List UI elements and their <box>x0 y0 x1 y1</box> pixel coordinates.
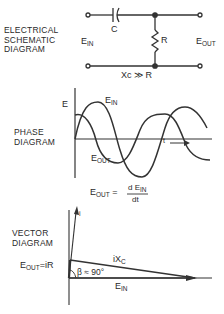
ein-arrow-icon <box>186 275 197 281</box>
vector-ein-label: EIN <box>115 281 128 292</box>
eout-sub: OUT <box>97 157 111 164</box>
ixc-sub: C <box>121 258 126 265</box>
eout-eq: =iR <box>40 260 54 270</box>
time-arrow-icon <box>184 140 190 146</box>
formula-lhs-sub: OUT <box>96 191 110 198</box>
vector-plot <box>69 206 212 305</box>
formula-equals: = <box>112 187 117 197</box>
phase-title: PHASE DIAGRAM <box>14 128 55 147</box>
input-terminal-bottom <box>86 64 90 68</box>
phase-eout-label: EOUT <box>91 153 111 164</box>
ixc-main: iX <box>113 254 121 264</box>
ixc-label: iXC <box>113 254 126 265</box>
formula-lhs: EOUT = <box>90 187 118 198</box>
angle-label: β ≈ 90° <box>77 267 104 277</box>
vector-title: VECTOR DIAGRAM <box>12 229 53 248</box>
eout-terminal-label: EOUT <box>196 36 216 47</box>
formula-denominator: dt <box>132 195 139 204</box>
junction-node-bottom <box>153 64 157 68</box>
ein-sub: IN <box>87 40 94 47</box>
ein-sub: IN <box>121 285 128 292</box>
formula-numerator: d EIN <box>128 183 147 193</box>
eout-sub: OUT <box>202 40 216 47</box>
input-terminal-top <box>86 13 90 17</box>
eout-sub: OUT <box>26 264 40 271</box>
schematic-title: ELECTRICAL SCHEMATIC DIAGRAM <box>4 26 58 55</box>
resistor-zigzag <box>152 30 158 52</box>
vector-title-line: DIAGRAM <box>12 239 53 249</box>
output-terminal-top <box>198 13 202 17</box>
eout-vector <box>69 260 70 278</box>
vector-eout-label: EOUT=iR <box>20 260 54 271</box>
ein-sub: IN <box>111 99 118 106</box>
phase-plot <box>75 88 212 178</box>
current-label: i <box>79 210 81 217</box>
formula-num-main: d E <box>128 183 140 192</box>
time-label: t <box>163 137 165 144</box>
phase-axis-label: E <box>62 99 68 109</box>
ein-terminal-label: EIN <box>81 36 94 47</box>
resistor-label: R <box>161 35 168 45</box>
phase-ein-label: EIN <box>105 95 118 106</box>
condition-label: Xc ≫ R <box>121 70 152 80</box>
schematic-title-line: DIAGRAM <box>4 45 58 55</box>
output-terminal-bottom <box>198 64 202 68</box>
capacitor-label: C <box>111 24 118 34</box>
formula-num-sub: IN <box>140 186 147 193</box>
schematic-circuit <box>86 8 202 68</box>
phase-title-line: DIAGRAM <box>14 138 55 148</box>
